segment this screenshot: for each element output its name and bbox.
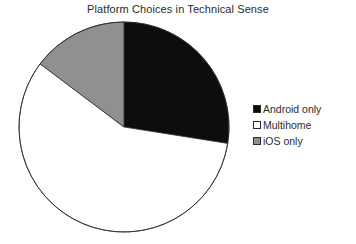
legend-label-ios-only: iOS only xyxy=(263,136,303,147)
legend-label-multihome: Multihome xyxy=(263,120,311,131)
pie-svg xyxy=(0,0,250,244)
chart-legend: Android only Multihome iOS only xyxy=(253,101,353,149)
pie-plot-area xyxy=(0,0,250,244)
legend-item-multihome[interactable]: Multihome xyxy=(253,117,353,133)
pie-chart-figure: Platform Choices in Technical Sense Andr… xyxy=(0,0,356,244)
legend-swatch-icon-ios-only xyxy=(253,137,261,145)
pie-slices-group xyxy=(19,22,229,232)
legend-label-android-only: Android only xyxy=(263,104,321,115)
pie-slice-android-only[interactable] xyxy=(124,22,229,143)
legend-item-ios-only[interactable]: iOS only xyxy=(253,133,353,149)
legend-swatch-icon-multihome xyxy=(253,121,261,129)
legend-swatch-icon-android-only xyxy=(253,105,261,113)
legend-item-android-only[interactable]: Android only xyxy=(253,101,353,117)
